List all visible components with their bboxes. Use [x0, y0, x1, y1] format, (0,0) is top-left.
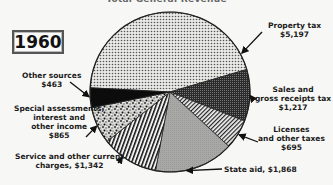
label-property-tax: Property tax $5,197: [268, 21, 321, 39]
label-line: other income: [14, 122, 104, 131]
label-sales-tax: Sales and gross receipts tax $1,217: [255, 85, 331, 112]
label-line: Sales and: [255, 85, 331, 94]
label-value: $695: [258, 143, 325, 152]
label-value: $865: [14, 131, 104, 140]
leader-arrow: [242, 32, 262, 53]
label-line: Special assessments,: [14, 104, 104, 113]
label-line: Service and other current: [15, 152, 124, 161]
label-line: interest and: [14, 113, 104, 122]
label-line: State aid, $1,868: [224, 165, 297, 174]
label-line: charges, $1,342: [15, 161, 124, 170]
label-line: and other taxes: [258, 134, 325, 143]
label-line: Licenses: [258, 125, 325, 134]
label-other-sources: Other sources $463: [22, 71, 81, 89]
label-line: gross receipts tax: [255, 94, 331, 103]
label-value: $5,197: [268, 30, 321, 39]
label-licenses: Licenses and other taxes $695: [258, 125, 325, 152]
label-line: Other sources: [22, 71, 81, 80]
label-service-charges: Service and other current charges, $1,34…: [15, 152, 124, 170]
label-value: $1,217: [255, 103, 331, 112]
leader-arrow: [239, 135, 258, 142]
label-line: Property tax: [268, 21, 321, 30]
label-state-aid: State aid, $1,868: [224, 165, 297, 174]
label-special-assessments: Special assessments, interest and other …: [14, 104, 104, 140]
label-value: $463: [22, 80, 81, 89]
